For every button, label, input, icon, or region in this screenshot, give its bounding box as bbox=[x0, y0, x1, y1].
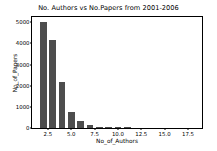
y-tick-mark bbox=[30, 64, 32, 65]
bar bbox=[77, 121, 84, 128]
x-tick-label: 15.0 bbox=[159, 131, 171, 137]
bar bbox=[96, 127, 103, 128]
y-tick-mark bbox=[30, 43, 32, 44]
y-tick-mark bbox=[30, 106, 32, 107]
y-tick-label: 5000 bbox=[16, 19, 30, 25]
chart-title: No. Authors vs No.Papers from 2001-2006 bbox=[0, 4, 217, 12]
bar bbox=[40, 22, 47, 128]
y-tick-mark bbox=[30, 85, 32, 86]
bar bbox=[68, 112, 75, 128]
plot-area bbox=[32, 17, 202, 128]
plot-axes: 0100020003000400050002.55.07.510.012.515… bbox=[31, 16, 203, 129]
bar bbox=[124, 127, 131, 128]
chart-figure: No. Authors vs No.Papers from 2001-2006 … bbox=[0, 0, 217, 151]
x-tick-label: 5.0 bbox=[67, 131, 76, 137]
bar bbox=[87, 125, 94, 128]
y-axis-label: No_of_Papers bbox=[11, 16, 19, 129]
bar bbox=[105, 127, 112, 128]
bar bbox=[49, 40, 56, 128]
y-tick-label: 1000 bbox=[16, 104, 30, 110]
x-tick-label: 2.5 bbox=[44, 131, 53, 137]
x-tick-label: 12.5 bbox=[135, 131, 147, 137]
y-tick-label: 2000 bbox=[16, 83, 30, 89]
x-axis-label: No_of_Authors bbox=[31, 138, 203, 144]
y-tick-mark bbox=[30, 22, 32, 23]
y-tick-mark bbox=[30, 128, 32, 129]
y-tick-label: 3000 bbox=[16, 62, 30, 68]
x-tick-label: 10.0 bbox=[112, 131, 124, 137]
y-tick-label: 4000 bbox=[16, 40, 30, 46]
y-tick-label: 0 bbox=[26, 125, 29, 131]
bar bbox=[59, 82, 66, 128]
x-tick-label: 17.5 bbox=[182, 131, 194, 137]
x-tick-label: 7.5 bbox=[90, 131, 99, 137]
